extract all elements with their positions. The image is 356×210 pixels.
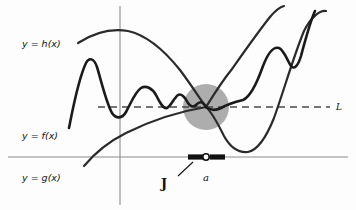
label-point-a: a xyxy=(203,172,209,183)
point-a-open-dot xyxy=(203,154,209,160)
leader-line-J xyxy=(178,162,193,176)
squeeze-theorem-diagram: y = h(x) y = f(x) y = g(x) L J a xyxy=(0,0,356,210)
label-interval-J: J xyxy=(160,176,167,191)
label-h: y = h(x) xyxy=(21,38,61,49)
label-limit-L: L xyxy=(335,102,342,112)
curve-h xyxy=(78,6,284,107)
label-f: y = f(x) xyxy=(21,130,58,141)
label-g: y = g(x) xyxy=(21,172,61,183)
curve-f-left xyxy=(69,59,206,128)
figure-canvas: y = h(x) y = f(x) y = g(x) L J a xyxy=(0,0,356,210)
